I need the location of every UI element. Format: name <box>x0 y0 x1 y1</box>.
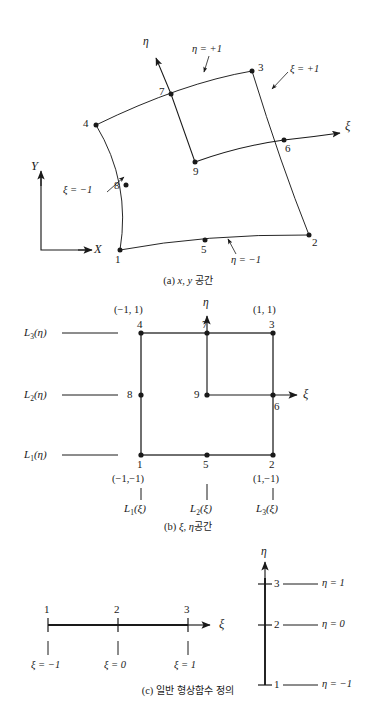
panel-a-x-axis-label: X <box>94 243 102 256</box>
panel-c-caption-prefix: (c) <box>142 685 154 696</box>
L3-xi-arg: (ξ) <box>266 502 278 514</box>
panel-c-eta-node-label-3: 3 <box>274 578 280 589</box>
panel-a-nodes <box>94 69 312 253</box>
panel-c-xi-node-label-1: 1 <box>44 604 50 615</box>
node-marker-9 <box>204 392 209 397</box>
panel-b-coord-node-1: (−1,−1) <box>112 474 144 485</box>
node-marker-4 <box>138 330 143 335</box>
panel-a-xi-minus-one-label: ξ = −1 <box>63 185 92 196</box>
panel-a-eta-minus-one-label: η = −1 <box>231 255 261 266</box>
panel-a-caption-vars: x, y <box>178 275 193 286</box>
node-marker-8 <box>124 183 129 188</box>
panel-c-eta-node-label-2: 2 <box>274 619 280 630</box>
panel-b-coord-node-4: (−1, 1) <box>114 305 143 316</box>
panel-b-coord-node-2: (1,−1) <box>253 474 279 485</box>
panel-a-xi-plus-one-label: ξ = +1 <box>290 64 319 75</box>
panel-a-node-label-1: 1 <box>115 254 121 265</box>
panel-c-xi-axis-label: ξ <box>219 618 224 631</box>
panel-a-node-label-7: 7 <box>159 86 165 97</box>
panel-b-node-label-3: 3 <box>269 319 275 330</box>
panel-b-node-label-9: 9 <box>194 389 200 400</box>
L1-xi-arg: (ξ) <box>134 502 146 514</box>
panel-a-node-label-6: 6 <box>285 143 291 154</box>
node-marker-1 <box>118 248 123 253</box>
panel-a-leader-lines <box>107 56 288 254</box>
panel-b-eta-axis-label: η <box>203 297 209 309</box>
node-marker-5 <box>204 452 209 457</box>
panel-c-xi-node-label-2: 2 <box>114 604 120 615</box>
node-marker-4 <box>94 123 99 128</box>
L2-xi-arg: (ξ) <box>200 502 212 514</box>
panel-b-row-function-L3-eta: L3(η) <box>24 327 47 341</box>
panel-c-xi-node-label-3: 3 <box>184 604 190 615</box>
panel-b-col-function-L2-xi: L2(ξ) <box>190 503 212 517</box>
node-marker-7 <box>204 330 209 335</box>
panel-a-node-label-4: 4 <box>83 118 89 129</box>
panel-b-row-function-L2-eta: L2(η) <box>24 389 47 403</box>
panel-a-caption-prefix: (a) <box>163 275 175 286</box>
panel-b-caption-vars: ξ, η <box>179 521 194 532</box>
panel-a-xi-axis-label: ξ <box>345 120 350 133</box>
panel-a-graphics <box>41 56 340 254</box>
panel-b-col-leaders <box>141 484 273 500</box>
panel-b-node-label-8: 8 <box>127 389 133 400</box>
panel-c-caption: (c) 일반 형상함수 정의 <box>0 686 376 697</box>
panel-c-eta-line <box>258 562 318 685</box>
panel-b-node-label-4: 4 <box>137 319 143 330</box>
panel-a-eta-plus-one-label: η = +1 <box>192 44 222 55</box>
panel-b-node-label-2: 2 <box>269 459 275 470</box>
panel-b-node-label-7: 7 <box>202 319 208 330</box>
node-marker-8 <box>138 392 143 397</box>
panel-b-node-label-1: 1 <box>137 459 143 470</box>
panel-c-xi-value-1: ξ = −1 <box>31 660 60 671</box>
panel-b-col-function-L1-xi: L1(ξ) <box>124 503 146 517</box>
node-marker-3 <box>270 330 275 335</box>
panel-a-caption-text: 공간 <box>195 275 213 286</box>
panel-c-eta-value-1: η = 1 <box>322 578 345 589</box>
panel-c-eta-axis-label: η <box>261 546 267 558</box>
panel-a-node-label-2: 2 <box>312 237 318 248</box>
L1-eta-arg: (η) <box>34 448 47 460</box>
panel-b-caption-prefix: (b) <box>164 521 176 532</box>
node-marker-6 <box>270 392 275 397</box>
node-marker-7 <box>169 92 174 97</box>
node-marker-1 <box>138 452 143 457</box>
panel-b-caption: (b) ξ, η공간 <box>0 522 376 533</box>
node-marker-2 <box>307 233 312 238</box>
panel-c-xi-value-3: ξ = 1 <box>174 660 196 671</box>
panel-c-eta-value-2: η = 0 <box>322 619 345 630</box>
panel-b-caption-text: 공간 <box>194 521 212 532</box>
panel-a-node-label-5: 5 <box>201 244 207 255</box>
element-boundary-curves <box>96 71 309 250</box>
panel-b-xi-axis-label: ξ <box>303 388 308 401</box>
global-axes-xy <box>41 171 92 250</box>
panel-a-node-label-9: 9 <box>193 166 199 177</box>
L2-eta-arg: (η) <box>34 388 47 400</box>
panel-c-caption-text: 일반 형상함수 정의 <box>156 685 234 696</box>
node-marker-9 <box>193 160 198 165</box>
panel-c-xi-line <box>48 618 210 655</box>
panel-c-xi-value-2: ξ = 0 <box>104 660 126 671</box>
panel-b-col-function-L3-xi: L3(ξ) <box>256 503 278 517</box>
panel-b-row-leaders <box>62 333 118 455</box>
figure-root: η ξ Y X η = +1 η = −1 ξ = +1 ξ = −1 1 2 … <box>0 0 376 710</box>
node-marker-2 <box>270 452 275 457</box>
panel-b-node-label-5: 5 <box>203 459 209 470</box>
panel-b-node-label-6: 6 <box>274 401 280 412</box>
node-marker-3 <box>250 69 255 74</box>
panel-a-y-axis-label: Y <box>31 160 38 173</box>
panel-a-eta-axis-label: η <box>143 36 149 48</box>
panel-a-node-label-8: 8 <box>114 180 120 191</box>
panel-a-node-label-3: 3 <box>258 62 264 73</box>
panel-b-coord-node-3: (1, 1) <box>253 305 276 316</box>
node-marker-5 <box>203 238 208 243</box>
panel-b-row-function-L1-eta: L1(η) <box>24 449 47 463</box>
panel-a-caption: (a) x, y 공간 <box>0 276 376 287</box>
L3-eta-arg: (η) <box>34 326 47 338</box>
